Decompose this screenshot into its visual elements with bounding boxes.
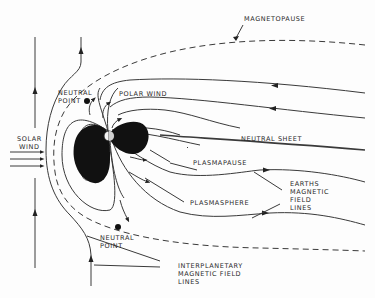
label-neutral-sheet: NEUTRAL SHEET (241, 135, 302, 143)
label-interplanetary-2: MAGNETIC FIELD (178, 270, 241, 278)
label-neutral-point-bottom-1: NEUTRAL (100, 234, 134, 242)
label-interplanetary-3: LINES (178, 278, 200, 286)
label-interplanetary-1: INTERPLANETARY (178, 262, 243, 270)
label-solar-wind-1: SOLAR (17, 135, 42, 143)
label-earths-field-3: FIELD (290, 196, 311, 204)
magnetosphere-diagram: MAGNETOPAUSE NEUTRAL POINT POLAR WIND SO… (0, 0, 375, 298)
magnetopause-leader (236, 25, 243, 38)
label-magnetopause: MAGNETOPAUSE (244, 15, 305, 23)
label-neutral-point-bottom-2: POINT (100, 242, 123, 250)
label-solar-wind-2: WIND (19, 143, 40, 151)
label-earths-field-1: EARTHS (290, 180, 319, 188)
label-earths-field-2: MAGNETIC (290, 188, 329, 196)
neutral-point-bottom (115, 224, 121, 230)
neutral-point-top (84, 98, 90, 104)
solar-wind-arrows (10, 152, 42, 166)
label-polar-wind: POLAR WIND (119, 90, 167, 98)
label-plasmapause: PLASMAPAUSE (193, 159, 247, 167)
diagram-svg: MAGNETOPAUSE NEUTRAL POINT POLAR WIND SO… (0, 0, 375, 298)
earth (104, 131, 114, 141)
label-neutral-point-top-2: POINT (58, 97, 81, 105)
label-plasmasphere: PLASMASPHERE (190, 199, 249, 207)
label-neutral-point-top-1: NEUTRAL (58, 89, 92, 97)
label-earths-field-4: LINES (290, 204, 312, 212)
